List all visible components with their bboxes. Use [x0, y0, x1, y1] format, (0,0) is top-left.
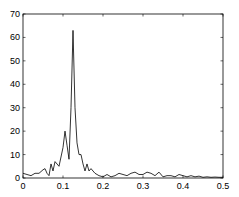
x-tick-label: 0 — [20, 181, 25, 191]
x-tick-label: 0.3 — [137, 181, 150, 191]
y-tick-label: 60 — [10, 32, 20, 42]
y-tick-label: 0 — [15, 173, 20, 183]
y-tick-label: 20 — [10, 126, 20, 136]
y-tick-label: 50 — [10, 56, 20, 66]
chart: 00.10.20.30.40.5 010203040506070 — [0, 0, 239, 197]
x-tick-label: 0.2 — [97, 181, 110, 191]
x-tick-label: 0.5 — [217, 181, 230, 191]
x-tick-label: 0.4 — [177, 181, 190, 191]
x-tick-label: 0.1 — [57, 181, 70, 191]
y-tick-label: 70 — [10, 9, 20, 19]
y-tick-label: 40 — [10, 79, 20, 89]
plot-area — [23, 14, 223, 178]
y-tick-label: 30 — [10, 103, 20, 113]
y-tick-label: 10 — [10, 150, 20, 160]
